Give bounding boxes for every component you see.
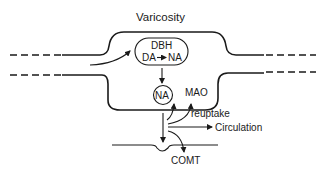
circulation-label: Circulation bbox=[215, 122, 262, 133]
postsynaptic-membrane bbox=[112, 145, 218, 151]
dbh-label: DBH bbox=[151, 40, 172, 51]
comt-label: COMT bbox=[171, 155, 200, 166]
da-label: DA bbox=[142, 52, 156, 63]
diagram-title: Varicosity bbox=[136, 11, 185, 23]
varicosity-diagram: Varicosity DBH DA NA NA MAO reuptake Cir… bbox=[0, 0, 326, 172]
comt-arrow bbox=[168, 131, 184, 152]
synthesis-vesicle: DBH DA NA bbox=[135, 38, 188, 65]
na-product-label: NA bbox=[168, 52, 182, 63]
reuptake-label: reuptake bbox=[191, 108, 230, 119]
uptake-arrow bbox=[90, 51, 130, 65]
na-granule: NA bbox=[154, 86, 173, 105]
na-granule-label: NA bbox=[155, 90, 169, 101]
mao-label: MAO bbox=[185, 87, 208, 98]
reuptake-to-granule-arrow bbox=[167, 104, 174, 120]
